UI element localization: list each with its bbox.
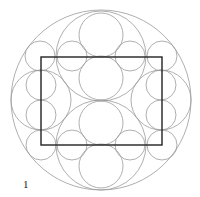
inner-circle [146, 70, 176, 100]
inner-circle [115, 41, 145, 71]
circle-packing-diagram [0, 0, 200, 197]
figure-label: 1 [23, 178, 29, 190]
inner-circle [57, 41, 87, 71]
inner-circle [146, 100, 176, 130]
geometry-figure: 1 [0, 0, 200, 197]
inner-circle [25, 41, 55, 71]
